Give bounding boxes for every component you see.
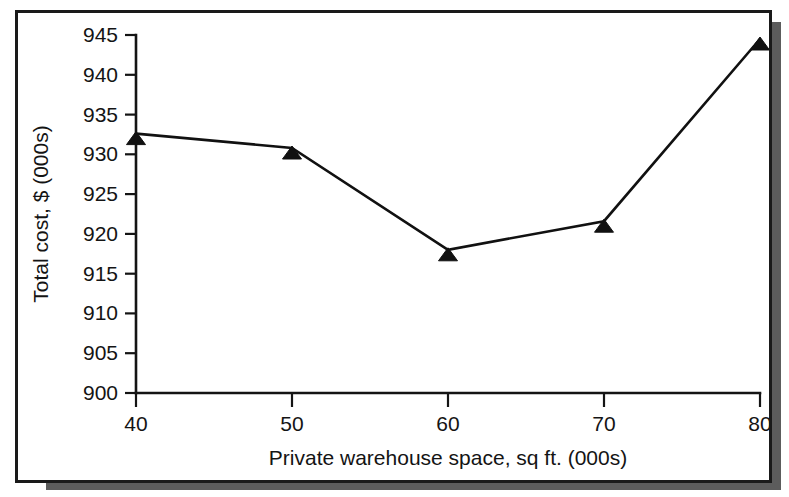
y-tick-label: 910 [83, 301, 118, 324]
figure-screenshot: 945 940 935 930 925 920 915 910 905 900 [0, 0, 789, 497]
x-tick-label: 50 [280, 412, 303, 435]
x-tick-label: 80 [748, 412, 769, 435]
figure-frame: 945 940 935 930 925 920 915 910 905 900 [15, 10, 772, 483]
x-axis-tick-labels: 40 50 60 70 80 [124, 412, 769, 435]
y-tick-label: 920 [83, 222, 118, 245]
x-tick-label: 70 [592, 412, 615, 435]
x-axis-ticks [136, 393, 760, 407]
x-tick-label: 60 [436, 412, 459, 435]
y-tick-label: 945 [83, 23, 118, 46]
y-axis-tick-labels: 945 940 935 930 925 920 915 910 905 900 [83, 23, 118, 404]
y-tick-label: 935 [83, 103, 118, 126]
x-tick-label: 40 [124, 412, 147, 435]
y-tick-label: 940 [83, 63, 118, 86]
data-series-line [136, 39, 760, 250]
y-tick-label: 900 [83, 381, 118, 404]
y-tick-label: 915 [83, 262, 118, 285]
chart-svg: 945 940 935 930 925 920 915 910 905 900 [18, 13, 769, 480]
data-point-marker [751, 37, 770, 50]
y-tick-label: 925 [83, 182, 118, 205]
y-tick-label: 905 [83, 341, 118, 364]
data-point-markers [127, 37, 770, 261]
y-axis-ticks [125, 35, 136, 393]
y-axis-title: Total cost, $ (000s) [29, 125, 52, 302]
x-axis-title: Private warehouse space, sq ft. (000s) [269, 446, 627, 469]
y-tick-label: 930 [83, 142, 118, 165]
line-chart: 945 940 935 930 925 920 915 910 905 900 [18, 13, 769, 480]
